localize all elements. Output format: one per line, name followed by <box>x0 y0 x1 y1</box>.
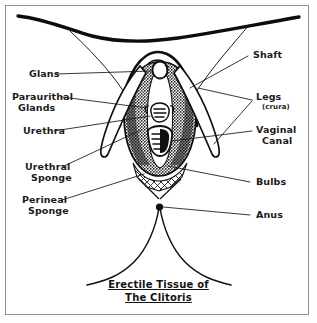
label-paraurithal-glands: Paraurithal Glands <box>12 92 73 113</box>
label-vaginal-canal-text-line2: Canal <box>256 136 296 147</box>
vaginal-canal-group <box>148 126 172 156</box>
anus-dot <box>156 203 163 210</box>
label-urethra-text: Urethra <box>23 125 65 136</box>
label-legs-text: Legs <box>256 91 281 102</box>
label-urethral-sponge: Urethral Sponge <box>25 162 72 183</box>
label-shaft: Shaft <box>253 50 282 61</box>
leader-legs-lower <box>214 101 252 144</box>
label-perineal-sponge-text-line2: Sponge <box>22 206 69 217</box>
label-vaginal-canal-text: Vaginal <box>256 124 296 135</box>
label-glans: Glans <box>29 69 59 80</box>
figure-caption: Erectile Tissue of The Clitoris <box>0 278 317 304</box>
leader-legs-upper <box>198 88 252 100</box>
label-perineal-sponge: Perineal Sponge <box>22 195 69 216</box>
figure-page: Glans Paraurithal Glands Urethra Urethra… <box>0 0 317 323</box>
label-urethra: Urethra <box>23 126 65 137</box>
label-perineal-sponge-text: Perineal <box>22 194 67 205</box>
left-buttock-curve <box>87 208 159 285</box>
leader-perineal-sponge <box>62 174 144 200</box>
label-vaginal-canal: Vaginal Canal <box>256 125 296 146</box>
label-anus: Anus <box>256 210 283 221</box>
label-legs-subtext: (crura) <box>256 103 290 111</box>
label-glans-text: Glans <box>29 68 59 79</box>
label-shaft-text: Shaft <box>253 49 282 60</box>
label-anus-text: Anus <box>256 209 283 220</box>
label-urethral-sponge-text-line2: Sponge <box>25 173 72 184</box>
figure-caption-line2: The Clitoris <box>125 292 192 303</box>
glans-group <box>153 62 168 79</box>
figure-caption-line1: Erectile Tissue of <box>108 279 209 290</box>
mons-contour-line <box>18 16 299 41</box>
anus-group <box>156 203 163 210</box>
right-buttock-curve <box>160 208 231 285</box>
label-urethral-sponge-text: Urethral <box>25 161 70 172</box>
label-paraurithal-text-line2: Glands <box>12 103 73 114</box>
label-paraurithal-text: Paraurithal <box>12 91 73 102</box>
glans-shape <box>153 62 168 79</box>
label-bulbs-text: Bulbs <box>256 176 286 187</box>
leader-anus <box>163 207 250 215</box>
label-bulbs: Bulbs <box>256 177 286 188</box>
label-legs: Legs (crura) <box>256 92 290 111</box>
